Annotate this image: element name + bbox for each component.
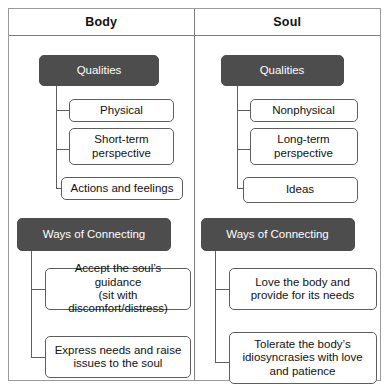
column-header-soul: Soul bbox=[195, 9, 381, 35]
column-header-body-label: Body bbox=[85, 15, 117, 29]
body-qualities-stub-2 bbox=[56, 149, 69, 150]
soul-qualities-stub-2 bbox=[237, 149, 250, 150]
body-ways-of-connecting-heading: Ways of Connecting bbox=[17, 218, 171, 251]
soul-qualities-trunk bbox=[237, 86, 238, 189]
column-header-body: Body bbox=[9, 9, 195, 35]
soul-ways-of-connecting-heading: Ways of Connecting bbox=[201, 218, 355, 251]
column-body: Qualities Physical Short-term perspectiv… bbox=[9, 36, 195, 380]
body-qualities-heading: Qualities bbox=[39, 55, 159, 86]
table-header-row: Body Soul bbox=[9, 9, 380, 36]
soul-ways-trunk bbox=[215, 251, 216, 363]
soul-qualities-stub-1 bbox=[237, 110, 250, 111]
soul-quality-nonphysical: Nonphysical bbox=[250, 99, 358, 122]
body-soul-diagram: Body Soul Qualities Physical Short-term … bbox=[8, 8, 381, 381]
body-way-express-needs: Express needs and raise issues to the so… bbox=[45, 336, 191, 378]
soul-quality-ideas: Ideas bbox=[243, 177, 358, 203]
body-ways-trunk bbox=[31, 251, 32, 358]
soul-way-tolerate-idiosyncrasies: Tolerate the body’s idiosyncrasies with … bbox=[229, 332, 377, 384]
body-qualities-trunk bbox=[56, 86, 57, 189]
body-qualities-stub-1 bbox=[56, 110, 69, 111]
soul-ways-stub-1 bbox=[215, 289, 229, 290]
column-soul: Qualities Nonphysical Long-term perspect… bbox=[195, 36, 381, 380]
soul-ways-stub-2 bbox=[215, 362, 229, 363]
soul-quality-long-term-perspective: Long-term perspective bbox=[250, 128, 358, 165]
column-header-soul-label: Soul bbox=[273, 15, 301, 29]
soul-way-love-the-body: Love the body and provide for its needs bbox=[229, 268, 377, 310]
body-quality-physical: Physical bbox=[69, 99, 174, 122]
diagram-columns: Qualities Physical Short-term perspectiv… bbox=[9, 36, 380, 380]
body-quality-short-term-perspective: Short-term perspective bbox=[69, 128, 174, 165]
body-way-accept-souls-guidance: Accept the soul’s guidance (sit with dis… bbox=[45, 268, 191, 310]
body-ways-stub-2 bbox=[31, 357, 45, 358]
body-ways-stub-1 bbox=[31, 289, 45, 290]
body-quality-actions-and-feelings: Actions and feelings bbox=[61, 177, 183, 200]
soul-qualities-heading: Qualities bbox=[221, 55, 344, 86]
